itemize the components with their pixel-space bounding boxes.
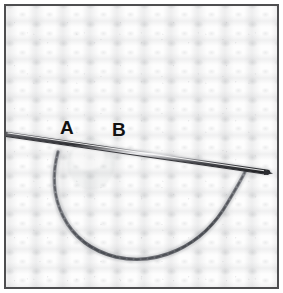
figure-root: A B (0, 0, 283, 293)
point-label-b: B (112, 120, 126, 139)
photo-canvas: A B (6, 6, 277, 287)
needle-and-thread-overlay (6, 6, 277, 287)
knitting-needle (6, 133, 273, 175)
photo-frame: A B (4, 4, 279, 289)
point-label-a: A (60, 118, 74, 137)
